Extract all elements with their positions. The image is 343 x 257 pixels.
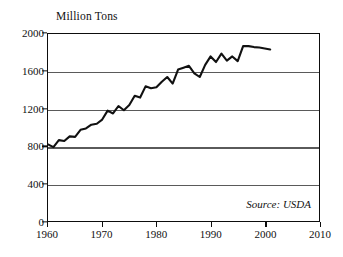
- x-tick-mark-1960: [47, 222, 48, 227]
- y-tick-mark-1200: [42, 108, 47, 109]
- x-tick-label-1960: 1960: [24, 228, 70, 240]
- chart-title: Million Tons: [56, 10, 118, 22]
- plot-area: Source: USDA: [47, 33, 320, 222]
- x-tick-label-2000: 2000: [242, 228, 288, 240]
- data-series-line: [48, 34, 319, 221]
- x-tick-label-2010: 2010: [297, 228, 343, 240]
- y-tick-label-400: 400: [4, 178, 44, 190]
- x-tick-label-1990: 1990: [188, 228, 234, 240]
- y-tick-label-1200: 1200: [4, 103, 44, 115]
- y-tick-mark-400: [42, 184, 47, 185]
- y-tick-mark-2000: [42, 32, 47, 33]
- y-tick-mark-800: [42, 146, 47, 147]
- chart-figure: Million Tons Source: USDA 04008001200160…: [0, 0, 343, 257]
- x-tick-mark-2000: [265, 222, 266, 227]
- x-tick-mark-2010: [320, 222, 321, 227]
- y-tick-label-1600: 1600: [4, 65, 44, 77]
- x-tick-mark-1980: [156, 222, 157, 227]
- y-tick-label-800: 800: [4, 140, 44, 152]
- x-tick-label-1970: 1970: [79, 228, 125, 240]
- y-tick-mark-1600: [42, 70, 47, 71]
- x-tick-mark-1990: [211, 222, 212, 227]
- y-tick-label-2000: 2000: [4, 27, 44, 39]
- x-tick-mark-1970: [102, 222, 103, 227]
- source-note: Source: USDA: [246, 198, 311, 210]
- x-tick-label-1980: 1980: [133, 228, 179, 240]
- y-tick-label-0: 0: [4, 216, 44, 228]
